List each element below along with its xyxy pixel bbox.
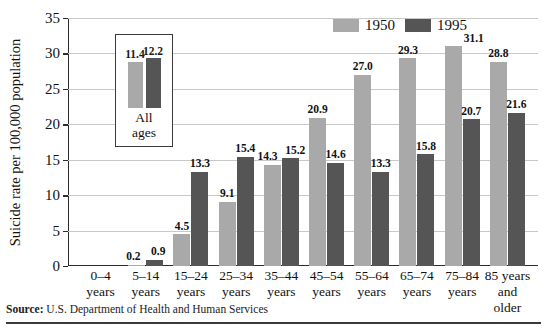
inset-caption-line-2: ages — [116, 125, 172, 141]
all-ages-inset-caption: All ages — [116, 110, 172, 141]
source-label: Source: — [6, 303, 43, 315]
bar-group-bars: 29.315.8 — [394, 18, 439, 266]
bar-value-label: 28.8 — [488, 48, 508, 60]
bar-1950: 29.3 — [399, 58, 416, 266]
category-label-line: and — [485, 284, 530, 300]
y-tick-label: 15 — [45, 151, 60, 168]
bar-value-label: 9.1 — [220, 188, 234, 200]
y-tick-mark — [63, 195, 68, 196]
category-label-line: years — [394, 284, 439, 300]
y-tick-label: 0 — [53, 258, 61, 275]
category-label-line: 0–4 — [78, 268, 123, 284]
bar-group: 9.115.4 — [214, 18, 259, 266]
inset-bar-1950: 11.4 — [128, 62, 143, 108]
category-label-line: years — [304, 284, 349, 300]
x-axis-category-label: 35–44years — [259, 268, 304, 300]
y-tick-mark — [63, 231, 68, 232]
bar-value-label: 14.6 — [326, 149, 346, 161]
category-label-line: 65–74 — [394, 268, 439, 284]
x-axis-category-label: 15–24years — [168, 268, 213, 300]
x-axis-category-label: 85 yearsandolder — [485, 268, 530, 316]
bar-group: 20.914.6 — [304, 18, 349, 266]
legend-label-1950: 1950 — [365, 17, 395, 34]
x-axis-category-label: 5–14years — [123, 268, 168, 300]
category-label-line: years — [123, 284, 168, 300]
y-tick-mark — [63, 53, 68, 54]
legend-item-1995: 1995 — [405, 17, 467, 34]
category-label-line: years — [259, 284, 304, 300]
category-label-line: 25–34 — [214, 268, 259, 284]
bar-value-label: 29.3 — [398, 45, 418, 57]
x-axis-category-label: 0–4years — [78, 268, 123, 300]
bar-1950: 20.9 — [309, 118, 326, 266]
y-tick-mark — [63, 18, 68, 19]
y-tick-label: 10 — [45, 187, 60, 204]
category-label-line: years — [440, 284, 485, 300]
bar-1995: 21.6 — [508, 113, 525, 266]
bar-1950: 31.1 — [445, 46, 462, 266]
all-ages-inset-panel: 11.4 12.2 All ages — [115, 34, 173, 147]
source-text: U.S. Department of Health and Human Serv… — [46, 303, 268, 315]
bar-value-label: 15.2 — [285, 145, 305, 157]
x-axis-category-label: 25–34years — [214, 268, 259, 300]
x-axis-category-label: 75–84years — [440, 268, 485, 300]
bar-1950: 14.3 — [264, 165, 281, 266]
bar-value-label: 14.3 — [257, 151, 277, 163]
bar-1950: 27.0 — [354, 75, 371, 266]
x-axis-category-label: 55–64years — [349, 268, 394, 300]
y-tick-label: 20 — [45, 116, 60, 133]
legend-label-1995: 1995 — [437, 17, 467, 34]
y-tick-mark — [63, 124, 68, 125]
bar-group-bars: 28.821.6 — [485, 18, 530, 266]
category-label-line: years — [349, 284, 394, 300]
category-label-line: 35–44 — [259, 268, 304, 284]
bar-1995: 13.3 — [372, 172, 389, 266]
bar-value-label: 0.2 — [126, 251, 140, 263]
bar-group-bars: 14.315.2 — [259, 18, 304, 266]
inset-caption-line-1: All — [116, 110, 172, 126]
x-axis-category-label: 45–54years — [304, 268, 349, 300]
bar-group: 29.315.8 — [394, 18, 439, 266]
category-label-line: years — [78, 284, 123, 300]
bar-value-label: 20.9 — [308, 104, 328, 116]
y-tick-label: 25 — [45, 80, 60, 97]
chart-legend: 1950 1995 — [333, 17, 467, 34]
bar-1995: 15.2 — [282, 158, 299, 266]
bar-group-bars: 27.013.3 — [349, 18, 394, 266]
legend-swatch-1950-icon — [333, 19, 359, 32]
bar-1995: 13.3 — [191, 172, 208, 266]
bar-1995: 14.6 — [327, 163, 344, 266]
bar-1995: 0.9 — [146, 260, 163, 266]
bar-value-label: 13.3 — [190, 158, 210, 170]
bar-value-label: 21.6 — [506, 99, 526, 111]
category-label-line: 75–84 — [440, 268, 485, 284]
source-divider — [6, 322, 541, 324]
bar-value-label: 13.3 — [371, 158, 391, 170]
bar-group: 31.120.7 — [440, 18, 485, 266]
category-label-line: 15–24 — [168, 268, 213, 284]
category-label-line: years — [214, 284, 259, 300]
bar-value-label: 15.8 — [416, 141, 436, 153]
bar-value-label: 4.5 — [175, 221, 189, 233]
y-tick-mark — [63, 160, 68, 161]
category-label-line: older — [485, 300, 530, 316]
category-label-line: 45–54 — [304, 268, 349, 284]
inset-bar-value-1995: 12.2 — [143, 46, 163, 58]
bar-group: 27.013.3 — [349, 18, 394, 266]
bar-value-label: 27.0 — [353, 61, 373, 73]
category-label-line: 85 years — [485, 268, 530, 284]
bar-1950: 9.1 — [219, 202, 236, 266]
bar-value-label: 31.1 — [464, 33, 484, 45]
y-tick-label: 35 — [45, 10, 60, 27]
y-tick-label: 30 — [45, 45, 60, 62]
y-axis-title: Suicide rate per 100,000 population — [6, 18, 26, 266]
bar-value-label: 15.4 — [235, 143, 255, 155]
bar-group: 14.315.2 — [259, 18, 304, 266]
all-ages-inset-bars: 11.4 12.2 — [116, 51, 172, 108]
bar-group-bars: 31.120.7 — [440, 18, 485, 266]
y-tick-mark — [63, 89, 68, 90]
suicide-rate-bar-chart-figure: Suicide rate per 100,000 population 0510… — [0, 0, 547, 333]
category-label-line: 55–64 — [349, 268, 394, 284]
bar-1950: 28.8 — [490, 62, 507, 266]
legend-swatch-1995-icon — [405, 19, 431, 32]
